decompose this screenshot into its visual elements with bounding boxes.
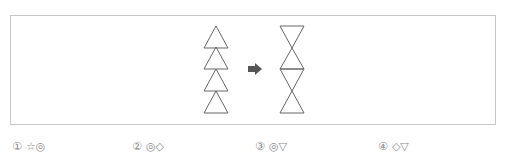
left-triangle-stack [204, 26, 228, 113]
figure-drawing [0, 0, 505, 162]
option-number: ① [12, 140, 22, 153]
option-3[interactable]: ③◎▽ [255, 140, 287, 153]
option-symbols: ◇▽ [392, 140, 409, 153]
option-symbols: ◎◇ [146, 140, 164, 153]
option-4[interactable]: ④◇▽ [378, 140, 409, 153]
option-2[interactable]: ②◎◇ [132, 140, 164, 153]
option-1[interactable]: ①☆◎ [12, 140, 45, 153]
right-arrow-icon [248, 63, 262, 75]
triangle-up-icon [204, 91, 228, 113]
right-triangle-stack [280, 26, 304, 113]
option-number: ③ [255, 140, 265, 153]
triangle-up-icon [204, 69, 228, 91]
triangle-down-icon [280, 69, 304, 91]
option-symbols: ☆◎ [26, 140, 45, 153]
option-number: ④ [378, 140, 388, 153]
triangle-up-icon [204, 47, 228, 69]
answer-options: ①☆◎ ②◎◇ ③◎▽ ④◇▽ [0, 140, 505, 158]
triangle-up-icon [280, 48, 304, 69]
triangle-down-icon [280, 26, 304, 48]
triangle-up-icon [280, 91, 304, 113]
option-symbols: ◎▽ [269, 140, 287, 153]
triangle-up-icon [204, 26, 228, 48]
option-number: ② [132, 140, 142, 153]
